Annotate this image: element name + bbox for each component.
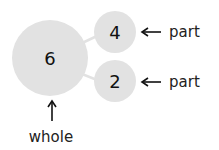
part-value-1: 4	[109, 22, 120, 43]
whole-value: 6	[44, 48, 55, 69]
part-value-2: 2	[109, 71, 120, 92]
part-label-2: part	[169, 73, 200, 91]
arrow-up-icon	[48, 101, 56, 121]
part-label-1: part	[169, 23, 200, 41]
arrow-left-icon	[142, 28, 161, 36]
arrow-left-icon	[142, 78, 161, 86]
number-bond-diagram: 6 4 2 part part whole	[0, 0, 219, 150]
whole-label: whole	[29, 128, 73, 146]
